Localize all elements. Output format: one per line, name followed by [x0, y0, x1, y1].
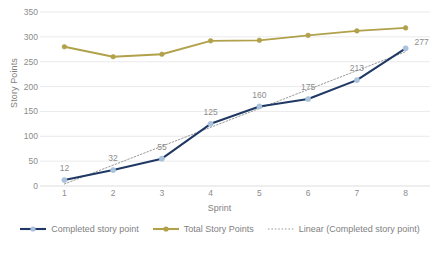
data-point-marker	[306, 33, 311, 38]
data-point-marker	[403, 46, 408, 51]
data-point-marker	[208, 39, 213, 44]
x-axis-tick-label: 3	[160, 188, 165, 198]
x-axis-tick-labels: 12345678	[0, 186, 439, 202]
x-axis-title: Sprint	[0, 203, 439, 213]
data-point-marker	[111, 54, 116, 59]
markers-total-story-points	[62, 26, 408, 59]
x-axis-tick-label: 1	[62, 188, 67, 198]
trendline-linear-completed	[64, 52, 405, 184]
chart-legend: Completed story pointTotal Story PointsL…	[0, 224, 439, 234]
legend-item[interactable]: Total Story Points	[152, 224, 254, 234]
data-point-marker	[62, 45, 67, 50]
data-point-marker	[159, 156, 164, 161]
series-line-completed-story-point	[64, 48, 405, 180]
y-axis-tick-label: 350	[4, 7, 38, 17]
data-point-marker	[160, 52, 165, 57]
y-axis-tick-label: 100	[4, 131, 38, 141]
data-point-marker	[257, 104, 262, 109]
line-marker-icon	[19, 224, 47, 234]
x-axis-tick-label: 6	[306, 188, 311, 198]
data-point-marker	[257, 38, 262, 43]
data-point-marker	[111, 167, 116, 172]
y-axis-tick-label: 250	[4, 57, 38, 67]
data-point-marker	[306, 96, 311, 101]
y-axis-tick-label: 200	[4, 82, 38, 92]
y-axis-tick-labels: 050100150200250300350	[0, 0, 38, 253]
legend-item-label: Total Story Points	[184, 225, 254, 234]
dotted-line-icon	[267, 224, 295, 234]
legend-item-label: Linear (Completed story point)	[299, 225, 420, 234]
y-axis-tick-label: 150	[4, 106, 38, 116]
plot-area	[40, 12, 430, 186]
x-axis-tick-label: 7	[355, 188, 360, 198]
data-point-marker	[62, 177, 67, 182]
legend-item[interactable]: Linear (Completed story point)	[267, 224, 420, 234]
gridlines	[40, 12, 430, 186]
x-axis-tick-label: 5	[257, 188, 262, 198]
series-line-total-story-points	[64, 28, 405, 57]
data-point-marker	[355, 29, 360, 34]
data-point-marker	[354, 78, 359, 83]
y-axis-tick-label: 50	[4, 156, 38, 166]
legend-item[interactable]: Completed story point	[19, 224, 139, 234]
chart-container: Story Points 050100150200250300350 12325…	[0, 0, 439, 253]
line-marker-icon	[152, 224, 180, 234]
x-axis-tick-label: 8	[403, 188, 408, 198]
y-axis-tick-label: 300	[4, 32, 38, 42]
legend-item-label: Completed story point	[51, 225, 139, 234]
x-axis-tick-label: 2	[111, 188, 116, 198]
data-point-marker	[208, 121, 213, 126]
x-axis-tick-label: 4	[208, 188, 213, 198]
data-point-marker	[403, 26, 408, 31]
plot-svg	[40, 12, 430, 186]
